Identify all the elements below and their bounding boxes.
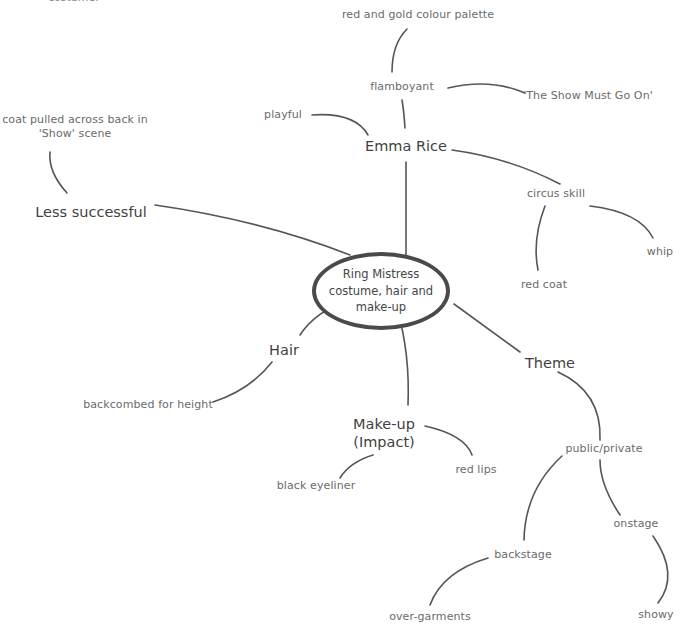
link-emma-rice-circus-skill [452,150,560,184]
node-coat-pulled-across-back: coat pulled across back in 'Show' scene [2,113,148,141]
node-backcombed-for-height: backcombed for height [83,398,213,412]
link-center-less-successful [155,205,350,255]
link-circus-skill-red-coat [536,206,545,270]
link-onstage-showy [653,536,668,603]
link-less-successful-coat [50,152,67,193]
node-makeup-line-2: (Impact) [353,433,415,451]
node-show-must-go-on: 'The Show Must Go On' [523,89,653,103]
node-red-and-gold-palette: red and gold colour palette [342,8,494,22]
cropped-text-fragment: costume. [48,0,99,4]
node-makeup-line-1: Make-up [353,415,415,433]
node-coat-line-1: coat pulled across back in [2,113,148,127]
node-red-coat: red coat [521,278,567,292]
node-showy: showy [638,608,673,622]
link-emma-rice-flamboyant [402,100,405,128]
link-flamboyant-palette [392,29,407,72]
link-makeup-red-lips [425,426,472,455]
node-black-eyeliner: black eyeliner [277,479,356,493]
node-emma-rice: Emma Rice [365,137,447,155]
node-hair: Hair [269,341,299,359]
link-public-private-backstage [524,456,562,540]
node-red-lips: red lips [455,463,496,477]
link-circus-skill-whip [590,206,653,238]
link-center-theme [454,304,520,352]
link-backstage-over-garments [430,558,488,605]
node-whip: whip [647,245,673,259]
node-over-garments: over-garments [389,610,471,624]
node-flamboyant: flamboyant [370,80,434,94]
node-public-private: public/private [565,442,642,456]
node-theme: Theme [525,354,575,372]
central-node-line-2: costume, hair and [326,283,436,300]
node-circus-skill: circus skill [527,187,585,201]
node-makeup-impact: Make-up (Impact) [353,415,415,451]
central-node-line-3: make-up [326,299,436,316]
link-theme-public-private [558,372,600,440]
link-public-private-onstage [600,460,620,515]
link-playful-emma-rice [312,115,368,135]
central-node: Ring Mistress costume, hair and make-up [312,252,450,330]
link-hair-backcombed [213,362,272,402]
node-playful: playful [264,108,302,122]
node-backstage: backstage [494,548,552,562]
link-makeup-eyeliner [340,455,373,478]
node-coat-line-2: 'Show' scene [2,127,148,141]
link-flamboyant-show-must-go-on [448,84,525,93]
node-less-successful: Less successful [35,203,147,221]
node-onstage: onstage [614,517,659,531]
central-node-line-1: Ring Mistress [326,266,436,283]
